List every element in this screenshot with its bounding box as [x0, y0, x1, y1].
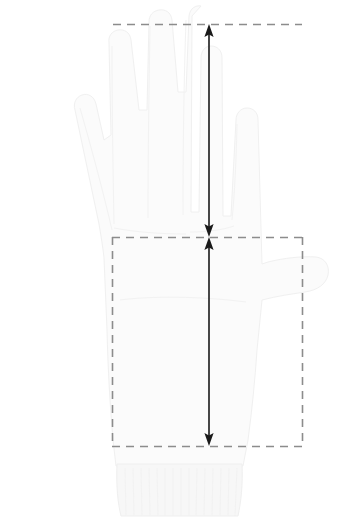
glove-measurement-diagram [0, 0, 345, 519]
glove-cuff [117, 464, 243, 516]
diagram-canvas [0, 0, 345, 519]
